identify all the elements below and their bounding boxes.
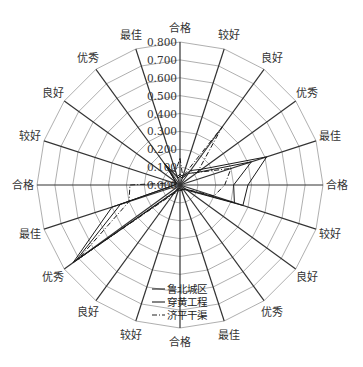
axis-label: 良好 — [296, 270, 318, 284]
radial-tick-label: 0.800 — [147, 36, 177, 48]
axis-label: 良好 — [77, 305, 99, 319]
radial-tick-labels: 0.0000.1000.2000.3000.4000.5000.6000.700… — [147, 36, 177, 191]
axis-label: 较好 — [120, 328, 142, 342]
radial-tick-label: 0.500 — [147, 90, 177, 102]
axis-label: 优秀 — [261, 306, 283, 319]
axis-label: 合格 — [326, 178, 348, 192]
legend: 鲁北城区 穿黄工程 济平干渠 — [152, 283, 208, 321]
axis-label: 最佳 — [120, 28, 142, 42]
axis-label: 最佳 — [319, 129, 341, 143]
series-line — [76, 162, 252, 261]
radial-tick-label: 0.700 — [147, 54, 177, 66]
axis-label: 优秀 — [42, 271, 64, 284]
legend-label: 穿黄工程 — [167, 296, 208, 308]
axis-label: 较好 — [19, 129, 41, 143]
radial-tick-label: 0.300 — [147, 125, 177, 137]
axis-label: 优秀 — [296, 87, 318, 100]
legend-label: 济平干渠 — [167, 309, 208, 321]
axis-label: 最佳 — [19, 227, 41, 241]
axis-spoke — [180, 185, 296, 269]
axis-label: 合格 — [169, 21, 191, 35]
axis-label: 良好 — [261, 51, 283, 65]
axis-label: 良好 — [42, 86, 64, 100]
axis-label: 合格 — [12, 178, 34, 192]
radial-tick-label: 0.200 — [147, 143, 177, 155]
axis-label: 较好 — [218, 28, 240, 42]
axis-spoke — [180, 185, 316, 229]
axis-label: 最佳 — [218, 328, 240, 342]
axis-label: 优秀 — [77, 52, 99, 65]
axis-label: 较好 — [319, 227, 341, 241]
radial-tick-label: 0.600 — [147, 72, 177, 84]
radial-tick-label: 0.400 — [147, 108, 177, 120]
legend-label: 鲁北城区 — [167, 283, 207, 295]
radar-chart: 0.0000.1000.2000.3000.4000.5000.6000.700… — [0, 0, 363, 367]
axis-label: 合格 — [169, 335, 191, 349]
